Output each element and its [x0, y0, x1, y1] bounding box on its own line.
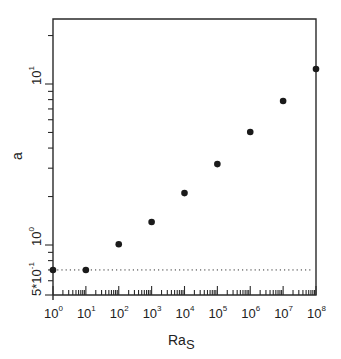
y-tick-label: 100: [27, 227, 44, 246]
x-axis-title-main: Ra: [168, 332, 186, 348]
x-minor-ticks: [63, 290, 315, 295]
x-axis-ticks: 100101102103104105106107108: [44, 286, 326, 321]
plot-frame: [53, 19, 316, 300]
data-point: [313, 66, 320, 73]
scatter-chart: 100101102103104105106107108 5*10-1100101…: [0, 0, 341, 359]
data-point: [148, 219, 155, 226]
data-point: [280, 98, 287, 105]
x-tick-label: 104: [176, 304, 195, 321]
y-tick-label: 101: [27, 66, 44, 85]
data-point: [214, 161, 221, 168]
data-point: [247, 129, 254, 136]
data-point: [83, 267, 90, 274]
x-axis-title-subscript: S: [186, 337, 195, 352]
x-tick-label: 108: [307, 304, 326, 321]
data-point: [115, 241, 122, 248]
x-tick-label: 106: [241, 304, 260, 321]
x-axis-title: RaS: [168, 332, 195, 352]
x-tick-label: 107: [274, 304, 293, 321]
x-tick-label: 100: [44, 304, 63, 321]
data-point: [50, 267, 57, 274]
data-point: [181, 190, 188, 197]
x-tick-label: 101: [77, 304, 96, 321]
y-minor-ticks: [48, 36, 53, 281]
x-tick-label: 102: [110, 304, 129, 321]
data-points: [50, 66, 320, 274]
x-tick-label: 105: [208, 304, 227, 321]
y-axis-title: a: [9, 152, 25, 160]
y-tick-label: 5*10-1: [27, 262, 44, 296]
x-tick-label: 103: [143, 304, 162, 321]
